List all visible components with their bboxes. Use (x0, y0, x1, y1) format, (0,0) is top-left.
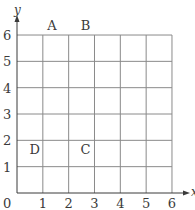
point-label-b: B (81, 18, 91, 33)
point-label-a: A (46, 18, 57, 33)
x-tick-label: 3 (90, 196, 98, 210)
grid-plot: y x 0 123456 123456 ABCD (0, 0, 195, 210)
x-tick-label: 6 (168, 196, 176, 210)
x-tick-labels: 123456 (39, 196, 176, 210)
x-axis-arrow-icon (183, 191, 190, 196)
x-tick-label: 2 (65, 196, 73, 210)
y-tick-label: 1 (3, 160, 11, 175)
x-tick-label: 1 (39, 196, 47, 210)
point-label-c: C (81, 142, 91, 157)
x-tick-label: 4 (116, 196, 124, 210)
x-axis-label: x (191, 185, 195, 199)
y-tick-label: 4 (3, 81, 11, 96)
y-tick-label: 5 (3, 54, 11, 69)
y-tick-label: 3 (3, 107, 11, 122)
coordinate-grid-diagram: y x 0 123456 123456 ABCD (0, 0, 195, 210)
axes: y x 0 (3, 3, 195, 210)
y-axis-label: y (13, 3, 21, 17)
grid-lines (17, 35, 172, 193)
point-label-d: D (30, 142, 40, 157)
x-tick-label: 5 (142, 196, 150, 210)
y-tick-label: 6 (3, 28, 11, 43)
y-tick-labels: 123456 (3, 28, 11, 175)
y-tick-label: 2 (3, 133, 11, 148)
origin-label: 0 (3, 196, 11, 210)
